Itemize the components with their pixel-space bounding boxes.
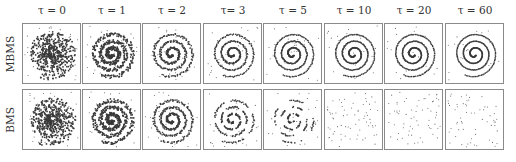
- spiral-panel-bms-0: [22, 89, 81, 150]
- spiral-panel-mbms-5: [324, 23, 383, 84]
- column-label-tau-60: τ = 60: [445, 4, 505, 16]
- spiral-panel-bms-6: [384, 89, 443, 150]
- column-label-tau-10: τ = 10: [324, 4, 384, 16]
- spiral-panel-bms-7: [445, 89, 504, 150]
- spiral-panel-mbms-7: [445, 23, 504, 84]
- spiral-panel-mbms-1: [82, 23, 141, 84]
- spiral-panel-mbms-2: [142, 23, 201, 84]
- spiral-panel-mbms-6: [384, 23, 443, 84]
- spiral-panel-bms-5: [324, 89, 383, 150]
- spiral-panel-mbms-0: [22, 23, 81, 84]
- column-label-tau-1: τ = 1: [82, 4, 142, 16]
- row-label-bms: BMS: [2, 89, 18, 150]
- row-label-mbms: MBMS: [2, 23, 18, 84]
- column-label-tau-5: τ = 5: [263, 4, 323, 16]
- spiral-panel-bms-1: [82, 89, 141, 150]
- spiral-panel-bms-4: [263, 89, 322, 150]
- spiral-panel-mbms-4: [263, 23, 322, 84]
- column-label-tau-2: τ = 2: [142, 4, 202, 16]
- spiral-panel-mbms-3: [203, 23, 262, 84]
- column-label-tau-20: τ = 20: [384, 4, 444, 16]
- row-label-text: BMS: [4, 107, 16, 133]
- column-label-tau-3: τ= 3: [203, 4, 263, 16]
- column-label-tau-0: τ = 0: [22, 4, 82, 16]
- spiral-panel-bms-3: [203, 89, 262, 150]
- spiral-panel-bms-2: [142, 89, 201, 150]
- row-label-text: MBMS: [4, 35, 16, 71]
